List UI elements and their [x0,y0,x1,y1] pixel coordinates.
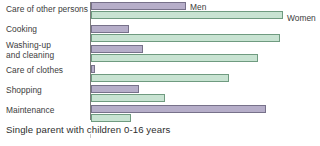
category-label-shopping: Shopping [6,86,90,96]
bar-men-maintenance [91,105,266,113]
bar-women-cooking [91,34,280,42]
category-axis-labels: Care of other persons Cooking Washing-up… [0,0,88,120]
bar-women-care-of-other-persons [91,11,283,19]
bar-women-washing-up-and-cleaning [91,54,258,62]
series-label-men: Men [190,3,206,12]
category-label-care-of-clothes: Care of clothes [6,66,90,76]
category-label-washing-up-and-cleaning: Washing-up and cleaning [6,41,90,60]
bar-chart: Care of other persons Cooking Washing-up… [0,0,320,146]
bar-men-shopping [91,85,139,93]
chart-caption: Single parent with children 0-16 years [6,124,170,136]
series-label-women: Women [287,14,316,23]
category-label-cooking: Cooking [6,25,90,35]
bar-men-washing-up-and-cleaning [91,45,143,53]
bar-women-care-of-clothes [91,74,229,82]
bar-men-care-of-clothes [91,65,95,73]
category-label-maintenance: Maintenance [6,106,90,116]
bar-men-care-of-other-persons [91,2,186,10]
bar-women-shopping [91,94,165,102]
category-label-care-of-other-persons: Care of other persons [6,5,90,15]
plot-area [90,2,318,120]
bar-women-maintenance [91,114,131,122]
bar-men-cooking [91,25,129,33]
